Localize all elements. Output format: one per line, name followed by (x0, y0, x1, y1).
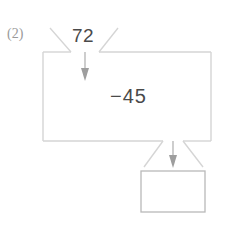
worksheet-canvas: (2) 72 −45 (0, 0, 226, 226)
input-funnel-left-diagonal (50, 28, 71, 52)
answer-box-value[interactable] (141, 171, 205, 212)
output-funnel-right-diagonal (183, 141, 203, 167)
input-arrow-down-icon (81, 52, 89, 81)
output-funnel-left-diagonal (144, 141, 163, 167)
output-arrow-down-icon (169, 141, 177, 168)
input-value-label: 72 (72, 26, 94, 45)
input-funnel-right-diagonal (99, 28, 118, 52)
operation-label: −45 (110, 86, 147, 106)
problem-number-label: (2) (7, 27, 23, 41)
